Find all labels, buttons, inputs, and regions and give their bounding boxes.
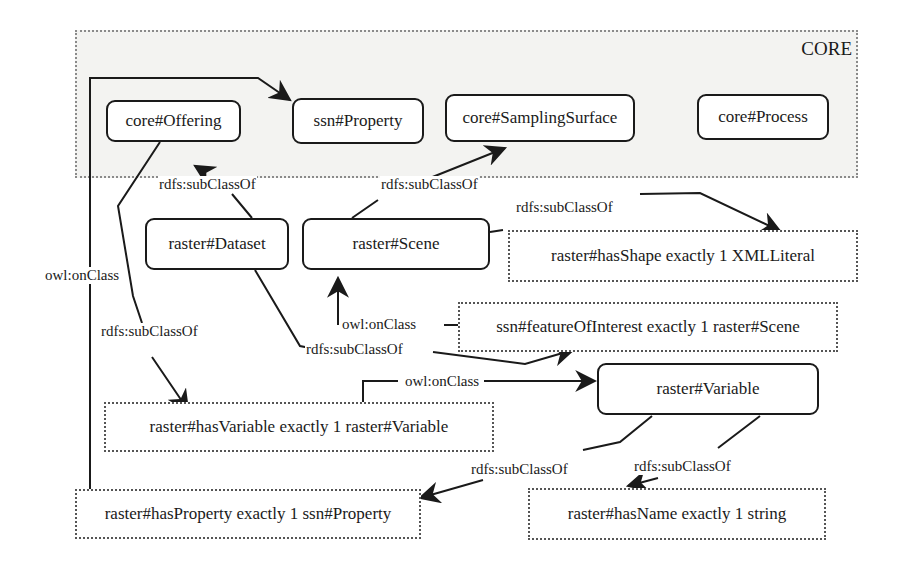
node-has-property-restriction[interactable]: raster#hasProperty exactly 1 ssn#Propert…: [75, 489, 421, 539]
edge-label-foi-onclass-scene: owl:onClass: [341, 316, 417, 333]
edge-label-dataset-subclass-foi: rdfs:subClassOf: [305, 341, 404, 358]
edge-label-offering-subclass-hasvariable: rdfs:subClassOf: [100, 323, 199, 340]
node-raster-variable[interactable]: raster#Variable: [597, 363, 819, 415]
node-has-name-restriction[interactable]: raster#hasName exactly 1 string: [528, 488, 826, 540]
node-core-process[interactable]: core#Process: [697, 94, 829, 140]
node-has-variable-restriction[interactable]: raster#hasVariable exactly 1 raster#Vari…: [104, 402, 494, 452]
edge-label-hasvariable-onclass-variable: owl:onClass: [404, 373, 480, 390]
edge-label-scene-subclass-sampling: rdfs:subClassOf: [380, 176, 479, 193]
node-core-sampling-surface[interactable]: core#SamplingSurface: [445, 94, 635, 142]
edge-label-hasproperty-onclass: owl:onClass: [44, 267, 120, 284]
edge-label-variable-subclass-hasproperty: rdfs:subClassOf: [470, 461, 569, 478]
node-ssn-property[interactable]: ssn#Property: [292, 98, 424, 144]
ontology-diagram: CORE: [0, 0, 898, 577]
node-raster-scene[interactable]: raster#Scene: [302, 218, 490, 270]
node-core-offering[interactable]: core#Offering: [106, 100, 241, 142]
edge-variable-subclass-hasname: [628, 416, 760, 486]
node-raster-dataset[interactable]: raster#Dataset: [145, 218, 289, 270]
node-has-shape-restriction[interactable]: raster#hasShape exactly 1 XMLLiteral: [508, 230, 858, 282]
edge-label-variable-subclass-hasname: rdfs:subClassOf: [633, 458, 732, 475]
node-feature-of-interest-restriction[interactable]: ssn#featureOfInterest exactly 1 raster#S…: [458, 302, 838, 352]
edge-label-scene-subclass-hasshape: rdfs:subClassOf: [515, 199, 614, 216]
edge-label-dataset-subclass-offering: rdfs:subClassOf: [158, 176, 257, 193]
